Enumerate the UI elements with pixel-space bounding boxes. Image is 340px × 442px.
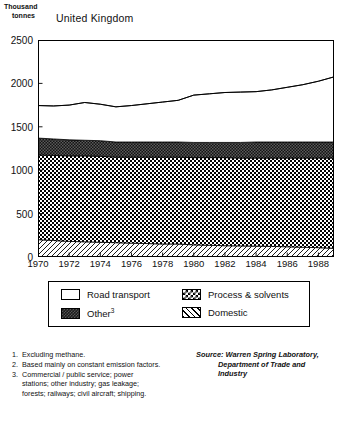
source-label: Source: [196, 350, 224, 359]
legend-swatch-other [61, 308, 80, 319]
legend-item-domestic: Domestic [182, 307, 248, 318]
y-axis-unit-line2: tonnes [4, 11, 56, 20]
x-axis-tick-label: 1974 [90, 258, 111, 269]
y-axis-tick-label: 500 [16, 208, 33, 219]
source-line-1: Source: Warren Spring Laboratory, [196, 350, 332, 360]
x-axis-tick-label: 1976 [121, 258, 142, 269]
source-line-3: Industry [196, 369, 332, 379]
source-org: Warren Spring Laboratory, [226, 350, 319, 359]
legend-footnote-marker-other: 3 [111, 307, 115, 314]
y-axis-tick-label: 2000 [11, 78, 33, 89]
x-axis-tick-label: 1978 [152, 258, 173, 269]
area-series-process-solvents [38, 155, 334, 248]
footnote-item: 2. Based mainly on constant emission fac… [12, 360, 162, 369]
legend-label-other: Other3 [87, 307, 114, 319]
chart-legend: Road transport Other3 Process & solvents… [48, 281, 310, 327]
legend-label-process-solvents: Process & solvents [208, 289, 289, 300]
footnotes-list: 1. Excluding methane. 2. Based mainly on… [12, 350, 162, 399]
y-axis-tick-label: 2500 [11, 35, 33, 46]
x-axis-tick-label: 1986 [277, 258, 298, 269]
y-axis-unit-line1: Thousand [4, 3, 37, 10]
x-axis-tick-label: 1982 [214, 258, 235, 269]
y-axis-unit-label: Thousand tonnes [4, 2, 56, 20]
footnote-text: Commercial / public service; power stati… [22, 370, 162, 398]
footnote-number: 2. [12, 360, 22, 369]
x-axis-tick-labels: 1970197219741976197819801982198419861988 [38, 258, 334, 272]
source-citation: Source: Warren Spring Laboratory, Depart… [196, 350, 332, 379]
legend-swatch-process-solvents [182, 289, 201, 300]
footnote-text: Based mainly on constant emission factor… [22, 360, 162, 369]
stacked-area-chart [38, 40, 334, 257]
footnote-text: Excluding methane. [22, 350, 162, 359]
y-axis-tick-label: 1500 [11, 121, 33, 132]
footnote-number: 3. [12, 370, 22, 398]
x-axis-tick-label: 1980 [183, 258, 204, 269]
legend-item-other: Other3 [61, 307, 114, 319]
footnote-item: 3. Commercial / public service; power st… [12, 370, 162, 398]
x-axis-tick-label: 1972 [59, 258, 80, 269]
legend-swatch-road-transport [61, 289, 80, 300]
chart-title: United Kingdom [56, 12, 134, 24]
x-axis-tick-label: 1970 [27, 258, 48, 269]
x-axis-tick-label: 1988 [308, 258, 329, 269]
y-axis-tick-label: 1000 [11, 165, 33, 176]
legend-label-domestic: Domestic [208, 307, 248, 318]
chart-page: Thousand tonnes United Kingdom 050010001… [0, 0, 340, 442]
source-line-2: Department of Trade and [196, 360, 332, 370]
footnote-item: 1. Excluding methane. [12, 350, 162, 359]
legend-item-road-transport: Road transport [61, 289, 150, 300]
y-axis-tick-labels: 05001000150020002500 [0, 40, 36, 257]
x-axis-tick-label: 1984 [246, 258, 267, 269]
legend-item-process-solvents: Process & solvents [182, 289, 289, 300]
legend-swatch-domestic [182, 307, 201, 318]
legend-label-road-transport: Road transport [87, 289, 150, 300]
footnote-number: 1. [12, 350, 22, 359]
chart-plot-area [38, 40, 334, 257]
